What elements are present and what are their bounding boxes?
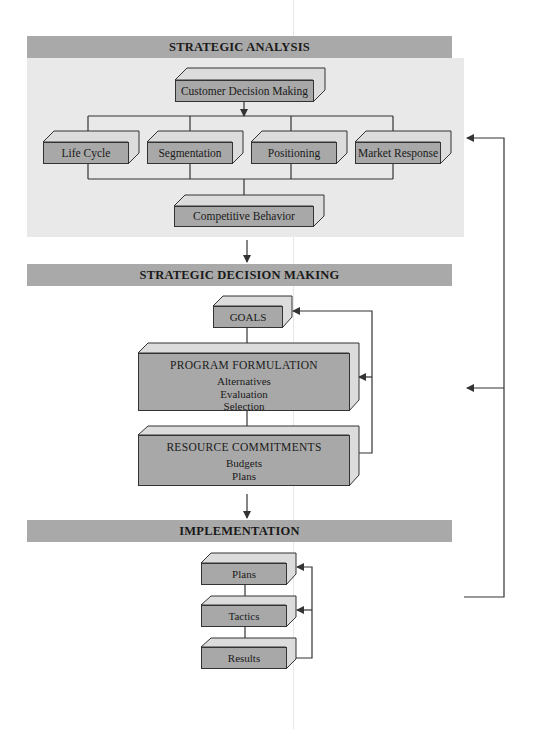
- program-formulation-title: PROGRAM FORMULATION: [139, 359, 349, 371]
- segmentation-label: Segmentation: [147, 142, 233, 164]
- competitive-behavior-label: Competitive Behavior: [174, 206, 314, 227]
- strategic-decision-making-header: STRATEGIC DECISION MAKING: [27, 264, 452, 286]
- implementation-header: IMPLEMENTATION: [27, 520, 452, 542]
- resource-commitments-panel: RESOURCE COMMITMENTS Budgets Plans: [138, 435, 350, 486]
- impl-tactics-label: Tactics: [201, 605, 287, 627]
- goals-label: GOALS: [213, 306, 283, 328]
- impl-results-label: Results: [201, 647, 287, 669]
- market-response-label: Market Response: [355, 142, 441, 164]
- program-item-alternatives: Alternatives: [139, 375, 349, 388]
- resource-commitments-title: RESOURCE COMMITMENTS: [139, 441, 349, 453]
- program-item-selection: Selection: [139, 400, 349, 413]
- impl-plans-label: Plans: [201, 563, 287, 585]
- life-cycle-label: Life Cycle: [43, 142, 129, 164]
- program-formulation-panel: PROGRAM FORMULATION Alternatives Evaluat…: [138, 353, 350, 411]
- resource-item-plans: Plans: [139, 470, 349, 483]
- customer-decision-making-label: Customer Decision Making: [175, 80, 314, 102]
- resource-item-budgets: Budgets: [139, 457, 349, 470]
- positioning-label: Positioning: [251, 142, 337, 164]
- program-item-evaluation: Evaluation: [139, 388, 349, 401]
